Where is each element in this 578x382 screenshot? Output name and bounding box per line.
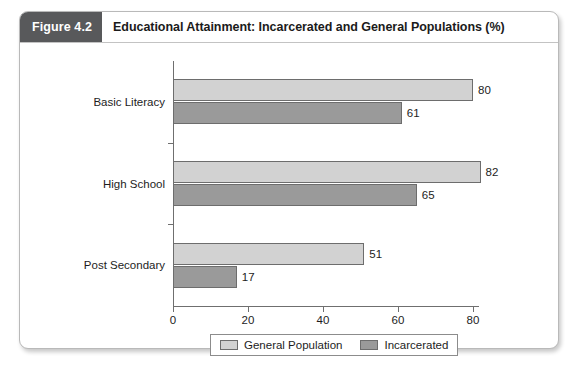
x-axis-tick [398, 307, 399, 312]
chart-legend: General PopulationIncarcerated [210, 334, 458, 356]
bar-value-label: 51 [369, 248, 382, 260]
x-axis-line [173, 306, 479, 307]
category-label: High School [25, 178, 165, 190]
bar-value-label: 65 [422, 189, 435, 201]
y-axis-tick [168, 143, 173, 144]
bar-value-label: 61 [407, 107, 420, 119]
figure-header: Figure 4.2 Educational Attainment: Incar… [20, 12, 558, 42]
legend-entry[interactable]: General Population [220, 339, 342, 351]
x-axis-tick [173, 307, 174, 312]
legend-label: Incarcerated [384, 339, 448, 351]
legend-swatch-general-population [220, 340, 238, 350]
bar-general-population [173, 79, 473, 101]
x-axis-tick-label: 0 [170, 314, 176, 326]
x-axis-tick [323, 307, 324, 312]
legend-swatch-incarcerated [360, 340, 378, 350]
x-axis-tick-label: 40 [317, 314, 330, 326]
x-axis-tick-label: 80 [467, 314, 480, 326]
bar-value-label: 80 [478, 84, 491, 96]
figure-title: Educational Attainment: Incarcerated and… [102, 12, 558, 42]
bar-incarcerated [173, 102, 402, 124]
x-axis-tick [473, 307, 474, 312]
chart-plot-area: Basic Literacy8061High School8265Post Se… [20, 43, 560, 349]
figure-number-badge: Figure 4.2 [20, 12, 102, 42]
category-label: Basic Literacy [25, 96, 165, 108]
x-axis-tick-label: 20 [242, 314, 255, 326]
legend-label: General Population [244, 339, 342, 351]
figure-card: Figure 4.2 Educational Attainment: Incar… [19, 11, 559, 349]
bar-incarcerated [173, 266, 237, 288]
x-axis-tick-label: 60 [392, 314, 405, 326]
legend-entry[interactable]: Incarcerated [360, 339, 448, 351]
x-axis-tick [248, 307, 249, 312]
category-label: Post Secondary [25, 259, 165, 271]
bar-value-label: 17 [242, 271, 255, 283]
bar-general-population [173, 243, 364, 265]
bar-incarcerated [173, 184, 417, 206]
y-axis-tick [168, 224, 173, 225]
bar-general-population [173, 161, 481, 183]
bar-value-label: 82 [486, 166, 499, 178]
